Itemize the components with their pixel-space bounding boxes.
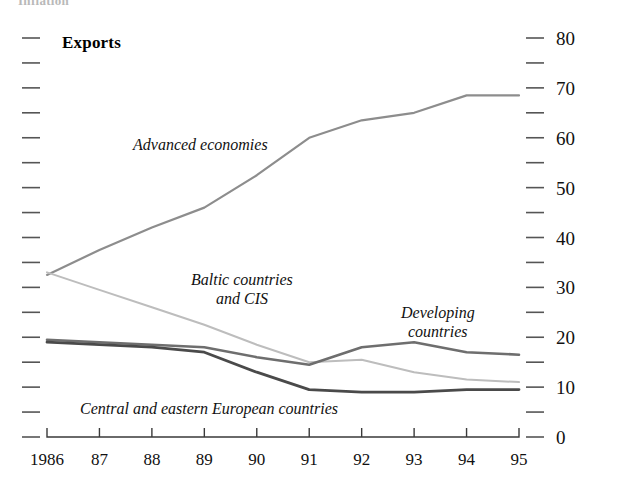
- series-lines-group: [47, 95, 519, 392]
- x-axis-tick-label: 92: [353, 450, 370, 469]
- x-axis-labels: 1986878889909192939495: [30, 450, 528, 469]
- y-axis-left-ticks: [22, 38, 40, 437]
- series-label-developing-line2: countries: [408, 323, 468, 340]
- x-axis-tick-label: 87: [91, 450, 109, 469]
- series-label-central-eastern-european: Central and eastern European countries: [80, 400, 338, 418]
- series-label-baltic-cis-line2: and CIS: [216, 290, 268, 307]
- series-line-developing-countries: [47, 340, 519, 365]
- y-axis-tick-label: 20: [556, 327, 575, 348]
- y-axis-tick-label: 0: [556, 427, 566, 448]
- y-axis-tick-label: 50: [556, 178, 575, 199]
- y-axis-right-ticks: [526, 38, 544, 437]
- x-axis-tick-label: 88: [143, 450, 160, 469]
- x-axis: [47, 428, 519, 437]
- series-label-baltic-cis-line1: Baltic countries: [191, 271, 293, 288]
- series-label-advanced-economies: Advanced economies: [132, 136, 268, 153]
- exports-chart-figure: Inflation Exports 01020304050607080 1986…: [0, 0, 623, 493]
- y-axis-right-labels: 01020304050607080: [556, 28, 575, 448]
- series-label-developing-line1: Developing: [400, 304, 475, 322]
- y-axis-tick-label: 60: [556, 128, 575, 149]
- line-chart-plot: 01020304050607080 1986878889909192939495…: [0, 0, 623, 493]
- x-axis-tick-label: 89: [196, 450, 213, 469]
- x-axis-tick-label: 93: [406, 450, 423, 469]
- x-axis-tick-label: 1986: [30, 450, 64, 469]
- x-axis-tick-label: 95: [511, 450, 528, 469]
- y-axis-tick-label: 30: [556, 277, 575, 298]
- y-axis-tick-label: 10: [556, 377, 575, 398]
- x-axis-tick-label: 94: [458, 450, 476, 469]
- y-axis-tick-label: 80: [556, 28, 575, 49]
- y-axis-tick-label: 40: [556, 228, 575, 249]
- y-axis-tick-label: 70: [556, 78, 575, 99]
- x-axis-tick-label: 91: [301, 450, 318, 469]
- series-line-advanced-economies: [47, 95, 519, 275]
- x-axis-tick-label: 90: [248, 450, 265, 469]
